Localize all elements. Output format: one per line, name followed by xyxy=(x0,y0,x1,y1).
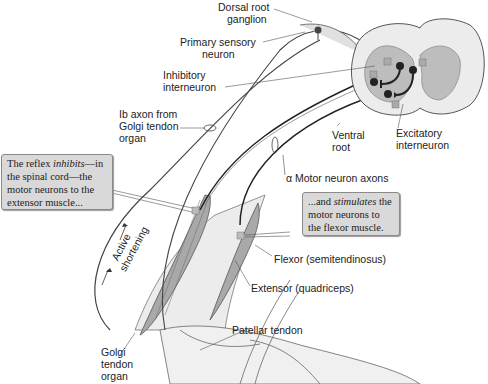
label-line: Ib axon from xyxy=(119,108,179,120)
label-alpha-motor-axons: α Motor neuron axons xyxy=(286,172,388,184)
label-flexor: Flexor (semitendinosus) xyxy=(274,253,386,265)
label-extensor: Extensor (quadriceps) xyxy=(251,282,354,294)
callout-stimulates: ...and stimulates the motor neurons to t… xyxy=(302,192,400,236)
motor-neuron-ext xyxy=(370,78,378,86)
dorsal-root-ganglion-cell xyxy=(315,27,322,34)
interneuron-2 xyxy=(409,66,417,74)
callout-inhibits: The reflex inhibits—in the spinal cord—t… xyxy=(1,154,113,210)
label-inhibitory-interneuron: Inhibitory interneuron xyxy=(163,69,216,93)
label-line: interneuron xyxy=(396,139,449,151)
label-line: Golgi tendon xyxy=(119,120,179,132)
interneuron-1 xyxy=(396,62,404,70)
label-patellar-tendon: Patellar tendon xyxy=(232,324,303,336)
label-line: Inhibitory xyxy=(163,69,216,81)
callout-emphasis: stimulates xyxy=(334,196,377,207)
label-ib-axon: Ib axon from Golgi tendon organ xyxy=(119,108,179,144)
label-line: organ xyxy=(101,370,133,382)
label-line: tendon xyxy=(101,358,133,370)
label-golgi-tendon-organ: Golgi tendon organ xyxy=(101,346,133,382)
label-line: neuron xyxy=(180,48,256,60)
label-line: Golgi xyxy=(101,346,133,358)
label-primary-sensory-neuron: Primary sensory neuron xyxy=(180,36,256,60)
label-line: Dorsal root xyxy=(218,1,269,13)
label-line: Excitatory xyxy=(396,127,449,139)
label-line: interneuron xyxy=(163,81,216,93)
callout-text: The reflex xyxy=(7,158,53,169)
label-line: organ xyxy=(119,132,179,144)
label-line: root xyxy=(332,141,365,153)
label-excitatory-interneuron: Excitatory interneuron xyxy=(396,127,449,151)
label-line: ganglion xyxy=(218,13,269,25)
label-line: Primary sensory xyxy=(180,36,256,48)
label-ventral-root: Ventral root xyxy=(332,129,365,153)
motor-neuron-flex xyxy=(384,90,392,98)
label-line: Ventral xyxy=(332,129,365,141)
label-dorsal-root-ganglion: Dorsal root ganglion xyxy=(218,1,269,25)
callout-text: ...and xyxy=(308,196,334,207)
callout-emphasis: inhibits xyxy=(53,158,85,169)
